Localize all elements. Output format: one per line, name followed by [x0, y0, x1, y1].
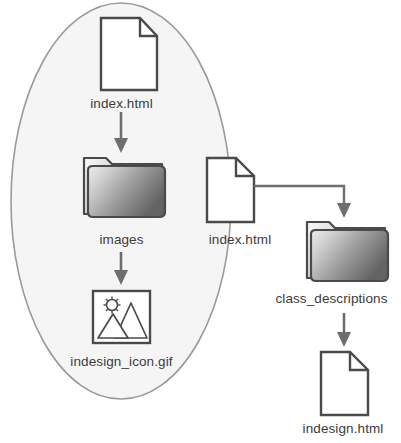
label-indesign-html: indesign.html — [285, 421, 401, 436]
document-icon-indesign-html — [321, 352, 368, 415]
diagram-svg — [0, 0, 401, 443]
folder-icon-images — [84, 158, 165, 217]
label-class-descriptions: class_descriptions — [262, 291, 401, 306]
label-index-html-right: index.html — [180, 232, 300, 247]
arrow-class-descriptions-to-indesign-html — [337, 313, 351, 347]
image-file-icon-indesign-gif — [93, 291, 150, 343]
document-icon-index-top — [101, 18, 157, 90]
document-icon-index-right — [207, 158, 254, 222]
diagram-canvas: index.html images indesign_icon.gif inde… — [0, 0, 401, 443]
label-indesign-icon-gif: indesign_icon.gif — [0, 354, 243, 369]
arrow-index-right-to-class-descriptions — [254, 186, 351, 218]
label-index-html-top: index.html — [0, 96, 243, 111]
folder-icon-class-descriptions — [307, 222, 388, 281]
